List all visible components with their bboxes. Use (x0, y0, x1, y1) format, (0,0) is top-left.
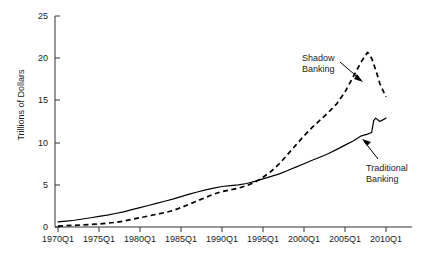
annotation-arrow-traditional-banking (362, 139, 378, 159)
axes (55, 16, 412, 232)
chart-container: Trillions of Dollars 25 20 15 10 5 0 197… (0, 0, 424, 262)
plot-area (0, 0, 424, 262)
series-line-traditional-banking (58, 118, 386, 222)
series-line-shadow-banking (58, 52, 386, 226)
x-axis-ticks (58, 227, 386, 232)
annotation-arrow-shadow-banking (340, 62, 363, 82)
y-axis-ticks (55, 16, 60, 227)
